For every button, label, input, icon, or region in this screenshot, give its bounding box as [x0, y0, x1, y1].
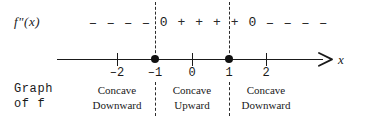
- inflection-point-dot-1: [151, 55, 159, 63]
- sign-cell-plus-5: +: [173, 14, 191, 32]
- concavity-region-2-line1: Concave: [221, 83, 311, 98]
- sign-cell-minus-3: –: [137, 14, 155, 32]
- axis-arrowhead-icon: [318, 52, 334, 67]
- second-derivative-label: f"(x): [14, 14, 40, 30]
- sign-cell-minus-2: –: [119, 14, 137, 32]
- sign-cell-minus-10: –: [261, 14, 279, 32]
- sign-row: ––––0++++0––––: [84, 14, 332, 32]
- axis-tick-4: [266, 53, 267, 66]
- concavity-region-2: ConcaveDownward: [221, 83, 311, 113]
- critical-line-top-neg1: [155, 2, 156, 58]
- number-line-axis: [57, 59, 323, 60]
- critical-line-top-pos1: [229, 2, 230, 58]
- inflection-point-dot-3: [225, 55, 233, 63]
- sign-cell-minus-12: –: [297, 14, 315, 32]
- sign-cell-zero-4: 0: [155, 14, 173, 32]
- axis-tick-label-0: –2: [102, 66, 132, 80]
- sign-cell-plus-7: +: [208, 14, 226, 32]
- axis-tick-label-1: –1: [140, 66, 170, 80]
- axis-tick-label-2: 0: [177, 66, 207, 80]
- sign-cell-minus-0: –: [84, 14, 102, 32]
- sign-cell-zero-9: 0: [243, 14, 261, 32]
- sign-cell-minus-13: –: [314, 14, 332, 32]
- axis-tick-0: [117, 53, 118, 66]
- sign-cell-minus-1: –: [102, 14, 120, 32]
- sign-cell-plus-6: +: [190, 14, 208, 32]
- graph-of-f-label: Graph of f: [14, 82, 53, 112]
- axis-tick-label-3: 1: [214, 66, 244, 80]
- concavity-region-2-line2: Downward: [221, 98, 311, 113]
- axis-tick-label-4: 2: [251, 66, 281, 80]
- sign-chart-figure: f"(x) ––––0++++0–––– x –2–1012 Graph of …: [0, 0, 365, 122]
- axis-tick-2: [192, 53, 193, 66]
- sign-cell-minus-11: –: [279, 14, 297, 32]
- axis-variable-label: x: [338, 52, 344, 68]
